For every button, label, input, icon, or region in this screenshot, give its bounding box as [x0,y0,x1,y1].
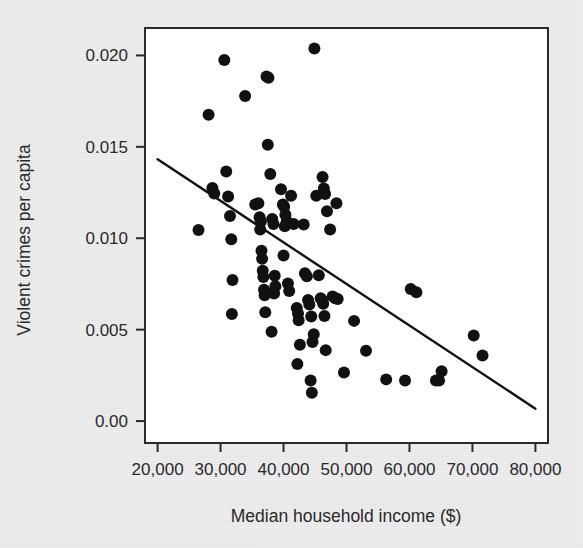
data-point [308,328,320,340]
data-point [224,210,236,222]
data-point [317,298,329,310]
data-point [308,42,320,54]
data-point [338,367,350,379]
data-point [293,314,305,326]
x-axis-title: Median household income ($) [231,506,462,526]
x-axis: 20,00030,00040,00050,00060,00070,00080,0… [132,443,562,479]
data-point [278,250,290,262]
x-tick-label: 80,000 [509,460,561,479]
data-point [320,344,332,356]
x-tick-label: 60,000 [383,460,435,479]
data-point [303,298,315,310]
data-point [305,374,317,386]
data-point [410,286,422,298]
x-tick-label: 20,000 [132,460,184,479]
y-axis: 0.000.0050.0100.0150.020 [85,46,145,431]
data-point [254,223,266,235]
x-tick-label: 30,000 [195,460,247,479]
plot-panel-background [145,28,548,443]
data-point [227,274,239,286]
data-point [360,345,372,357]
data-point [294,339,306,351]
data-point [225,233,237,245]
data-point [218,54,230,66]
data-point [264,168,276,180]
data-point [208,187,220,199]
x-tick-label: 40,000 [258,460,310,479]
y-tick-label: 0.005 [85,321,128,340]
data-point [318,310,330,322]
data-point [239,90,251,102]
y-tick-label: 0.010 [85,229,128,248]
scatter-plot: 20,00030,00040,00050,00060,00070,00080,0… [0,0,583,548]
data-point [285,190,297,202]
data-point [317,171,329,183]
data-point [305,310,317,322]
data-point [226,308,238,320]
y-axis-title: Violent crimes per capita [14,144,34,336]
data-point [298,219,310,231]
data-point [332,293,344,305]
data-point [262,72,274,84]
y-tick-label: 0.020 [85,46,128,65]
x-tick-label: 70,000 [446,460,498,479]
y-tick-label: 0.00 [95,412,128,431]
data-point [319,188,331,200]
data-point [324,223,336,235]
data-point [256,253,268,265]
data-point [222,191,234,203]
y-tick-label: 0.015 [85,138,128,157]
data-point [321,205,333,217]
data-point [380,373,392,385]
data-point [477,350,489,362]
data-point [330,197,342,209]
data-point [220,166,232,178]
data-point [313,269,325,281]
data-point [468,330,480,342]
data-point [252,197,264,209]
data-point [275,183,287,195]
data-point [266,326,278,338]
data-point [436,365,448,377]
data-point [259,306,271,318]
data-point [301,270,313,282]
data-point [262,139,274,151]
data-point [193,224,205,236]
figure-container: 20,00030,00040,00050,00060,00070,00080,0… [0,0,583,548]
data-point [306,387,318,399]
data-point [268,287,280,299]
data-point [257,271,269,283]
data-point [267,218,279,230]
x-tick-label: 50,000 [321,460,373,479]
data-point [348,315,360,327]
data-point [203,109,215,121]
data-point [269,270,281,282]
data-point [399,374,411,386]
data-point [283,285,295,297]
data-point [291,358,303,370]
